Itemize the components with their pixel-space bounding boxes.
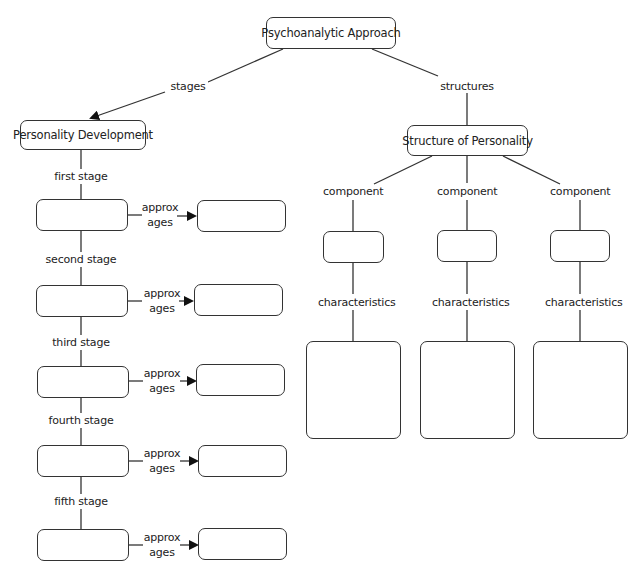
root-label: Psychoanalytic Approach <box>261 26 400 40</box>
age-2-box[interactable] <box>194 284 283 316</box>
structure-of-personality-label: Structure of Personality <box>402 134 533 148</box>
stage-2-box[interactable] <box>36 285 128 317</box>
component-1-box[interactable] <box>323 231 384 263</box>
approx-ages-label-3: approx ages <box>137 366 187 396</box>
characteristics-3-box[interactable] <box>533 341 628 439</box>
approx-ages-label-1: approx ages <box>135 200 185 230</box>
age-3-box[interactable] <box>196 364 285 396</box>
characteristics-1-box[interactable] <box>306 341 401 439</box>
age-5-box[interactable] <box>198 528 287 560</box>
link-label-component-2: component <box>437 185 497 198</box>
link-label-characteristics-1: characteristics <box>318 296 388 309</box>
link-label-characteristics-2: characteristics <box>432 296 502 309</box>
link-label-first-stage: first stage <box>48 170 114 183</box>
link-label-fifth-stage: fifth stage <box>51 495 111 508</box>
age-4-box[interactable] <box>198 445 287 477</box>
age-1-box[interactable] <box>197 200 286 232</box>
stage-1-box[interactable] <box>36 199 128 231</box>
personality-development-label: Personality Development <box>13 128 153 142</box>
stage-3-box[interactable] <box>37 366 129 398</box>
approx-ages-label-2: approx ages <box>137 286 187 316</box>
approx-ages-label-4: approx ages <box>137 446 187 476</box>
link-label-component-3: component <box>550 185 610 198</box>
link-label-second-stage: second stage <box>45 253 117 266</box>
link-label-fourth-stage: fourth stage <box>46 414 116 427</box>
link-label-third-stage: third stage <box>50 336 112 349</box>
characteristics-2-box[interactable] <box>420 341 515 439</box>
root-node: Psychoanalytic Approach <box>266 17 396 49</box>
component-2-box[interactable] <box>437 230 497 262</box>
stage-5-box[interactable] <box>37 529 129 561</box>
structure-of-personality-node: Structure of Personality <box>407 125 528 156</box>
link-label-stages: stages <box>168 80 208 93</box>
component-3-box[interactable] <box>550 230 610 262</box>
link-label-characteristics-3: characteristics <box>545 296 615 309</box>
stage-4-box[interactable] <box>37 445 129 477</box>
personality-development-node: Personality Development <box>20 120 146 150</box>
link-label-structures: structures <box>436 80 498 93</box>
approx-ages-label-5: approx ages <box>137 530 187 560</box>
link-label-component-1: component <box>323 185 383 198</box>
